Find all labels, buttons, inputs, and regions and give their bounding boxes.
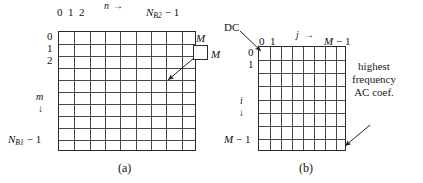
panel-a-left-axis-end-label: NB1− 1 — [8, 134, 41, 147]
panel-b-hf-line-3: AC coef. — [352, 86, 396, 99]
panel-b-left-end-m: M — [224, 133, 233, 145]
grid-vertical-line — [182, 32, 183, 150]
grid-horizontal-line — [59, 56, 195, 57]
panel-a-grid — [58, 31, 196, 151]
panel-b-grid — [258, 46, 346, 151]
panel-a-left-axis-arrow-icon: ↓ — [38, 104, 43, 114]
panel-b-hf-line-2: frequency — [352, 73, 396, 86]
panel-a-left-tick-0: 0 — [47, 31, 53, 42]
grid-vertical-line — [105, 32, 106, 150]
panel-a-left-tick-1: 1 — [47, 43, 53, 54]
panel-b-highest-frequency-note: highest frequency AC coef. — [352, 60, 396, 99]
panel-a-left-tick-2: 2 — [47, 55, 53, 66]
panel-b-hf-line-1: highest — [352, 60, 396, 73]
grid-horizontal-line — [59, 92, 195, 93]
panel-b-caption: (b) — [299, 162, 313, 174]
grid-horizontal-line — [59, 68, 195, 69]
grid-horizontal-line — [59, 44, 195, 45]
grid-horizontal-line — [59, 104, 195, 105]
grid-horizontal-line — [259, 86, 345, 87]
panel-a-top-end-tail: − 1 — [165, 6, 179, 18]
grid-vertical-line — [336, 47, 337, 150]
panel-b-left-axis-variable: i — [240, 96, 243, 106]
grid-vertical-line — [151, 32, 152, 150]
panel-b-left-tick-0: 0 — [248, 47, 254, 58]
figure-canvas: 0 1 2 n → NB2− 1 0 1 2 m ↓ NB1− 1 M M (a… — [0, 0, 423, 183]
panel-b-left-end-rest: − 1 — [233, 133, 250, 145]
panel-a-macroblock-label-top: M — [196, 33, 205, 44]
panel-a-top-axis-variable: n — [104, 1, 109, 11]
panel-a-top-tick-2: 2 — [79, 7, 85, 18]
panel-a-left-end-sub: B1 — [15, 138, 23, 147]
grid-vertical-line — [314, 47, 315, 150]
panel-a-macroblock-box — [193, 45, 208, 60]
grid-horizontal-line — [259, 139, 345, 140]
grid-horizontal-line — [59, 80, 195, 81]
grid-vertical-line — [270, 47, 271, 150]
grid-vertical-line — [136, 32, 137, 150]
grid-horizontal-line — [259, 126, 345, 127]
grid-vertical-line — [303, 47, 304, 150]
grid-horizontal-line — [259, 73, 345, 74]
grid-horizontal-line — [59, 140, 195, 141]
panel-a-left-end-tail: − 1 — [27, 133, 41, 145]
panel-a-macroblock-label-right: M — [211, 49, 220, 60]
grid-horizontal-line — [59, 116, 195, 117]
panel-a-caption: (a) — [118, 162, 131, 174]
panel-a-top-axis-arrow-icon: → — [113, 1, 123, 11]
panel-b-top-axis-arrow-icon: → — [304, 30, 314, 40]
panel-b-top-axis-variable: j — [296, 30, 299, 40]
grid-horizontal-line — [259, 100, 345, 101]
grid-vertical-line — [166, 32, 167, 150]
panel-a-top-tick-0: 0 — [57, 7, 63, 18]
panel-a-top-end-sub: B2 — [153, 11, 161, 20]
panel-a-left-axis-variable: m — [36, 92, 43, 102]
grid-vertical-line — [325, 47, 326, 150]
panel-b-left-tick-1: 1 — [248, 59, 254, 70]
grid-vertical-line — [281, 47, 282, 150]
panel-b-left-axis-end-label: M − 1 — [224, 134, 250, 145]
panel-a-top-axis-end-label: NB2− 1 — [146, 7, 179, 20]
panel-a-top-tick-1: 1 — [68, 7, 74, 18]
grid-vertical-line — [292, 47, 293, 150]
panel-b-dc-label: DC — [224, 22, 239, 33]
grid-vertical-line — [74, 32, 75, 150]
grid-horizontal-line — [259, 60, 345, 61]
panel-b-left-axis-arrow-icon: ↓ — [239, 108, 244, 118]
grid-vertical-line — [120, 32, 121, 150]
grid-horizontal-line — [59, 128, 195, 129]
panel-b-highest-frequency-leader-arrow-icon — [345, 125, 370, 146]
grid-vertical-line — [90, 32, 91, 150]
grid-horizontal-line — [259, 113, 345, 114]
